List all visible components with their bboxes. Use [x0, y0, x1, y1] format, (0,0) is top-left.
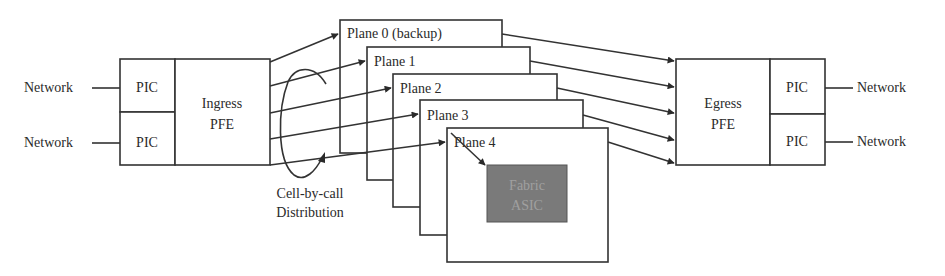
ingress-pic-1-label: PIC: [136, 80, 158, 95]
egress-pic-1-label: PIC: [786, 80, 808, 95]
ingress-pfe-label-1: Ingress: [202, 96, 242, 111]
plane-1-label: Plane 1: [374, 54, 416, 69]
ingress-pic-2-label: PIC: [136, 135, 158, 150]
egress-network-label-1: Network: [857, 80, 906, 95]
egress-group: Egress PFE PIC PIC Network Network: [676, 59, 906, 165]
egress-pfe: [676, 59, 770, 165]
plane-stack: Plane 0 (backup) Plane 1 Plane 2 Plane 3…: [340, 20, 608, 262]
ingress-network-label-1: Network: [24, 80, 73, 95]
egress-pic-2-label: PIC: [786, 134, 808, 149]
ingress-group: Network Network PIC PIC Ingress PFE: [24, 59, 270, 165]
distribution-loop-arrowhead-icon: [318, 152, 325, 163]
plane-2-label: Plane 2: [400, 81, 442, 96]
plane-3-label: Plane 3: [427, 108, 469, 123]
distribution-label-1: Cell-by-call: [277, 186, 344, 201]
distribution-label-2: Distribution: [276, 205, 344, 220]
plane-0-label: Plane 0 (backup): [347, 26, 442, 42]
ingress-network-label-2: Network: [24, 135, 73, 150]
arrow-plane-4-egress: [608, 142, 674, 163]
ingress-pfe: [175, 59, 270, 165]
ingress-pfe-label-2: PFE: [210, 117, 234, 132]
egress-pfe-label-1: Egress: [704, 96, 741, 111]
egress-network-label-2: Network: [857, 134, 906, 149]
fabric-asic: [487, 165, 567, 222]
arrow-ingress-plane-0: [270, 34, 338, 62]
switch-fabric-diagram: Network Network PIC PIC Ingress PFE Plan…: [0, 0, 945, 276]
egress-pfe-label-2: PFE: [711, 117, 735, 132]
fabric-asic-label-2: ASIC: [511, 198, 543, 213]
fabric-asic-label-1: Fabric: [509, 178, 545, 193]
distribution-loop: Cell-by-call Distribution: [276, 70, 344, 221]
